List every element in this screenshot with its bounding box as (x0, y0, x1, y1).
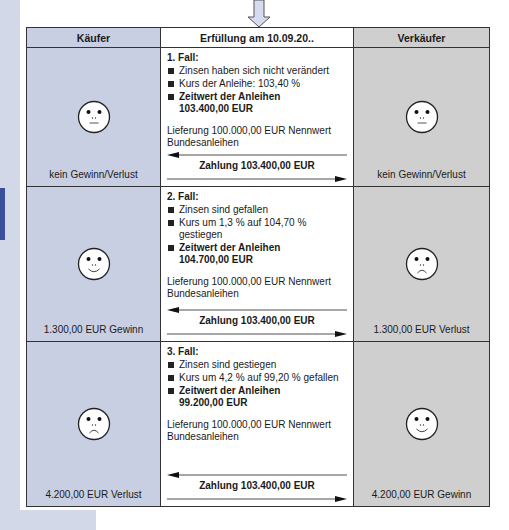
bullet-item: Kurs der Anleihe: 103,40 % (167, 78, 347, 90)
bullet-item: Kurs um 1,3 % auf 104,70 % gestiegen (167, 217, 347, 241)
seller-result: kein Gewinn/Verlust (354, 169, 489, 180)
fair-value-amount: 99.200,00 EUR (179, 397, 247, 408)
buyer-cell-3: 4.200,00 EUR Verlust (27, 342, 161, 507)
header-buyer: Käufer (27, 28, 161, 48)
header-row: Käufer Erfüllung am 10.09.20.. Verkäufer (27, 28, 490, 48)
decorative-bottom-strip (0, 510, 96, 530)
header-seller: Verkäufer (354, 28, 490, 48)
case-title: 1. Fall: (167, 52, 347, 64)
case-title: 2. Fall: (167, 191, 347, 203)
case-bullets: Zinsen sind gefallen Kurs um 1,3 % auf 1… (167, 204, 347, 266)
bullet-item: Zinsen sind gestiegen (167, 359, 347, 371)
buyer-result: 1.300,00 EUR Gewinn (27, 324, 160, 335)
case-row-1: kein Gewinn/Verlust 1. Fall: Zinsen habe… (27, 48, 490, 187)
neutral-face-icon (77, 100, 111, 134)
sad-face-icon (77, 407, 111, 441)
down-arrow-icon (247, 0, 271, 28)
happy-face-icon (77, 247, 111, 281)
delivery-text: Lieferung 100.000,00 EUR Nennwert Bundes… (167, 276, 347, 300)
buyer-result: 4.200,00 EUR Verlust (27, 489, 160, 500)
happy-face-icon (405, 407, 439, 441)
payment-label: Zahlung 103.400,00 EUR (167, 315, 347, 327)
seller-result: 4.200,00 EUR Gewinn (354, 489, 489, 500)
delivery-text: Lieferung 100.000,00 EUR Nennwert Bundes… (167, 125, 347, 149)
seller-cell-3: 4.200,00 EUR Gewinn (354, 342, 490, 507)
fair-value-amount: 103.400,00 EUR (179, 103, 253, 114)
fair-value-label: Zeitwert der Anleihen (179, 242, 280, 253)
fair-value-item: Zeitwert der Anleihen 104.700,00 EUR (167, 242, 347, 266)
forward-contract-table: Käufer Erfüllung am 10.09.20.. Verkäufer… (26, 27, 490, 507)
case-row-3: 4.200,00 EUR Verlust 3. Fall: Zinsen sin… (27, 342, 490, 507)
settlement-cell-2: 2. Fall: Zinsen sind gefallen Kurs um 1,… (161, 187, 354, 342)
case-bullets: Zinsen haben sich nicht verändert Kurs d… (167, 65, 347, 115)
settlement-cell-3: 3. Fall: Zinsen sind gestiegen Kurs um 4… (161, 342, 354, 507)
decorative-side-strip (0, 0, 20, 530)
bullet-item: Kurs um 4,2 % auf 99,20 % gefallen (167, 372, 347, 384)
buyer-cell-1: kein Gewinn/Verlust (27, 48, 161, 187)
fair-value-label: Zeitwert der Anleihen (179, 91, 280, 102)
payment-flow: Zahlung 103.400,00 EUR (167, 472, 347, 502)
sad-face-icon (405, 247, 439, 281)
payment-flow: Zahlung 103.400,00 EUR (167, 152, 347, 182)
chapter-marker-tab (0, 188, 5, 240)
bullet-item: Zinsen sind gefallen (167, 204, 347, 216)
buyer-result: kein Gewinn/Verlust (27, 169, 160, 180)
arrow-left-icon (167, 152, 347, 158)
delivery-text: Lieferung 100.000,00 EUR Nennwert Bundes… (167, 419, 347, 443)
case-bullets: Zinsen sind gestiegen Kurs um 4,2 % auf … (167, 359, 347, 409)
arrow-right-icon (167, 176, 347, 182)
buyer-cell-2: 1.300,00 EUR Gewinn (27, 187, 161, 342)
payment-flow: Zahlung 103.400,00 EUR (167, 307, 347, 337)
payment-label: Zahlung 103.400,00 EUR (167, 480, 347, 492)
fair-value-item: Zeitwert der Anleihen 103.400,00 EUR (167, 91, 347, 115)
payment-label: Zahlung 103.400,00 EUR (167, 160, 347, 172)
header-settlement: Erfüllung am 10.09.20.. (161, 28, 354, 48)
fair-value-amount: 104.700,00 EUR (179, 254, 253, 265)
seller-cell-2: 1.300,00 EUR Verlust (354, 187, 490, 342)
seller-cell-1: kein Gewinn/Verlust (354, 48, 490, 187)
case-row-2: 1.300,00 EUR Gewinn 2. Fall: Zinsen sind… (27, 187, 490, 342)
arrow-left-icon (167, 472, 347, 478)
bullet-item: Zinsen haben sich nicht verändert (167, 65, 347, 77)
fair-value-label: Zeitwert der Anleihen (179, 385, 280, 396)
arrow-right-icon (167, 496, 347, 502)
arrow-right-icon (167, 331, 347, 337)
settlement-cell-1: 1. Fall: Zinsen haben sich nicht verände… (161, 48, 354, 187)
case-title: 3. Fall: (167, 346, 347, 358)
arrow-left-icon (167, 307, 347, 313)
neutral-face-icon (405, 100, 439, 134)
fair-value-item: Zeitwert der Anleihen 99.200,00 EUR (167, 385, 347, 409)
seller-result: 1.300,00 EUR Verlust (354, 324, 489, 335)
